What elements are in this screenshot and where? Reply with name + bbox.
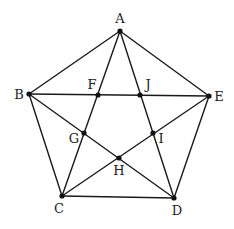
label-group: ABECDFJGIH — [14, 11, 224, 218]
edge-ae — [120, 31, 209, 96]
pentagram-diagram: ABECDFJGIH — [0, 0, 234, 229]
diagram-canvas: ABECDFJGIH — [0, 0, 234, 229]
point-b-label: B — [14, 87, 24, 102]
point-a-label: A — [114, 11, 125, 26]
point-b-marker — [26, 91, 31, 96]
edge-bd — [29, 94, 174, 198]
edge-bc — [29, 94, 62, 196]
point-a-marker — [117, 28, 122, 33]
point-h-marker — [116, 155, 121, 160]
edge-ed — [174, 96, 209, 198]
point-g-label: G — [69, 131, 79, 146]
point-e-label: E — [214, 89, 224, 104]
edge-ec — [62, 96, 209, 196]
point-h-label: H — [113, 163, 124, 178]
point-f-label: F — [87, 77, 96, 92]
point-f-marker — [95, 92, 100, 97]
point-d-marker — [171, 195, 176, 200]
point-i-label: I — [158, 131, 163, 146]
point-i-marker — [150, 130, 155, 135]
point-d-label: D — [172, 203, 182, 218]
edge-ab — [29, 31, 120, 94]
point-j-marker — [137, 92, 142, 97]
point-j-label: J — [143, 77, 150, 92]
point-g-marker — [81, 130, 86, 135]
point-e-marker — [206, 93, 211, 98]
edge-cd — [62, 196, 174, 198]
edge-ac — [62, 31, 120, 196]
edge-be — [29, 94, 209, 96]
point-c-label: C — [54, 201, 64, 216]
point-c-marker — [59, 193, 64, 198]
edge-ad — [120, 31, 174, 198]
